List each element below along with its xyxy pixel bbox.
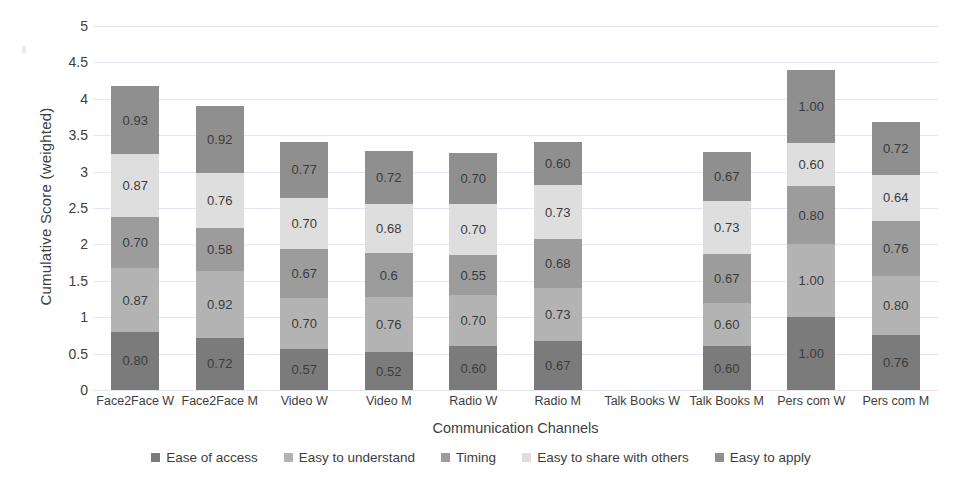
bar-segment[interactable]: 0.70 [449, 153, 497, 204]
x-axis-tick-label: Face2Face W [93, 394, 178, 414]
bar-slot: 0.760.800.760.640.72 [854, 26, 939, 390]
bar-segment[interactable]: 0.73 [703, 201, 751, 254]
legend-item[interactable]: Easy to understand [284, 450, 415, 465]
x-axis-tick-label: Radio W [431, 394, 516, 414]
bar-segment[interactable]: 0.87 [111, 154, 159, 217]
bar-slot: 0.570.700.670.700.77 [262, 26, 347, 390]
bar-segment[interactable]: 0.52 [365, 352, 413, 390]
bar-segment[interactable]: 0.67 [534, 341, 582, 390]
bars-container: 0.800.870.700.870.930.720.920.580.760.92… [93, 26, 938, 390]
bar-segment[interactable]: 0.70 [449, 204, 497, 255]
bar-segment[interactable]: 1.00 [787, 317, 835, 390]
bar-stack[interactable]: 0.720.920.580.760.92 [196, 106, 244, 390]
bar-segment[interactable]: 0.72 [365, 151, 413, 203]
bar-stack[interactable]: 0.760.800.760.640.72 [872, 122, 920, 390]
bar-segment[interactable]: 0.73 [534, 288, 582, 341]
bar-stack[interactable]: 0.600.700.550.700.70 [449, 153, 497, 390]
x-axis-tick-label: Video M [347, 394, 432, 414]
bar-segment[interactable]: 0.72 [872, 122, 920, 174]
bar-segment[interactable]: 0.60 [703, 346, 751, 390]
bar-segment[interactable]: 0.57 [280, 349, 328, 390]
y-axis-tick-label: 1.5 [69, 273, 88, 289]
bar-slot: 1.001.000.800.601.00 [769, 26, 854, 390]
x-axis-tick-label: Talk Books W [600, 394, 685, 414]
bar-segment[interactable]: 0.76 [872, 221, 920, 276]
x-axis-tick-label: Pers com W [769, 394, 854, 414]
legend-swatch-icon [522, 453, 531, 462]
chart-legend: Ease of accessEasy to understandTimingEa… [0, 450, 962, 465]
bar-segment[interactable]: 0.60 [703, 303, 751, 347]
legend-item[interactable]: Easy to share with others [522, 450, 689, 465]
x-axis-title: Communication Channels [93, 420, 938, 436]
legend-swatch-icon [151, 453, 160, 462]
bar-stack[interactable]: 0.600.600.670.730.67 [703, 152, 751, 390]
bar-segment[interactable]: 0.68 [365, 204, 413, 254]
bar-segment[interactable]: 0.92 [196, 271, 244, 338]
bar-slot: 0.600.600.670.730.67 [685, 26, 770, 390]
x-axis-tick-label: Video W [262, 394, 347, 414]
bar-segment[interactable]: 0.76 [196, 173, 244, 228]
bar-segment[interactable]: 1.00 [787, 70, 835, 143]
legend-label: Ease of access [166, 450, 258, 465]
bar-segment[interactable]: 0.76 [872, 335, 920, 390]
bar-slot: 0.520.760.60.680.72 [347, 26, 432, 390]
legend-label: Easy to understand [299, 450, 415, 465]
y-axis-ticks: 00.511.522.533.544.55 [40, 26, 88, 390]
legend-label: Timing [456, 450, 496, 465]
gridline [93, 390, 938, 391]
stacked-bar-chart: Cumulative Score (weighted) 00.511.522.5… [0, 0, 962, 478]
bar-segment[interactable]: 0.67 [703, 152, 751, 201]
y-axis-tick-label: 4.5 [69, 54, 88, 70]
bar-segment[interactable]: 0.70 [449, 295, 497, 346]
bar-segment[interactable]: 0.70 [280, 298, 328, 349]
bar-segment[interactable]: 0.68 [534, 239, 582, 289]
x-axis-tick-label: Face2Face M [178, 394, 263, 414]
bar-segment[interactable]: 0.55 [449, 255, 497, 295]
bar-segment[interactable]: 0.93 [111, 86, 159, 154]
bar-segment[interactable]: 0.73 [534, 185, 582, 238]
bar-segment[interactable]: 0.77 [280, 142, 328, 198]
legend-item[interactable]: Ease of access [151, 450, 258, 465]
bar-segment[interactable]: 0.67 [703, 254, 751, 303]
bar-segment[interactable]: 0.70 [280, 198, 328, 249]
bar-segment[interactable]: 0.60 [787, 143, 835, 187]
bar-stack[interactable]: 0.570.700.670.700.77 [280, 142, 328, 390]
bar-segment[interactable]: 0.72 [196, 338, 244, 390]
bar-segment[interactable]: 0.67 [280, 249, 328, 298]
legend-swatch-icon [715, 453, 724, 462]
y-axis-tick-label: 3 [80, 164, 88, 180]
bar-segment[interactable]: 0.60 [449, 346, 497, 390]
x-axis-tick-label: Talk Books M [685, 394, 770, 414]
bar-segment[interactable]: 0.60 [534, 142, 582, 186]
bar-segment[interactable]: 0.64 [872, 175, 920, 222]
bar-segment[interactable]: 0.80 [787, 186, 835, 244]
bar-segment[interactable]: 1.00 [787, 244, 835, 317]
legend-label: Easy to apply [730, 450, 811, 465]
bar-segment[interactable]: 0.87 [111, 268, 159, 331]
bar-stack[interactable]: 1.001.000.800.601.00 [787, 70, 835, 390]
legend-swatch-icon [441, 453, 450, 462]
y-axis-tick-label: 3.5 [69, 127, 88, 143]
legend-item[interactable]: Easy to apply [715, 450, 811, 465]
bar-segment[interactable]: 0.76 [365, 297, 413, 352]
bar-slot: 0.600.700.550.700.70 [431, 26, 516, 390]
bar-segment[interactable]: 0.80 [872, 276, 920, 334]
bar-stack[interactable]: 0.670.730.680.730.60 [534, 142, 582, 390]
bar-stack[interactable]: 0.800.870.700.870.93 [111, 86, 159, 390]
y-axis-tick-label: 1 [80, 309, 88, 325]
bar-segment[interactable]: 0.6 [365, 253, 413, 297]
bar-segment[interactable]: 0.80 [111, 332, 159, 390]
y-axis-tick-label: 5 [80, 18, 88, 34]
bar-segment[interactable]: 0.58 [196, 228, 244, 270]
bar-slot: 0.670.730.680.730.60 [516, 26, 601, 390]
legend-label: Easy to share with others [537, 450, 689, 465]
bar-slot [600, 26, 685, 390]
legend-item[interactable]: Timing [441, 450, 496, 465]
bar-segment[interactable]: 0.92 [196, 106, 244, 173]
y-axis-tick-label: 4 [80, 91, 88, 107]
bar-segment[interactable]: 0.70 [111, 217, 159, 268]
x-axis-tick-labels: Face2Face WFace2Face MVideo WVideo MRadi… [93, 394, 938, 414]
bar-slot: 0.800.870.700.870.93 [93, 26, 178, 390]
bar-stack[interactable]: 0.520.760.60.680.72 [365, 151, 413, 390]
y-axis-tick-label: 2.5 [69, 200, 88, 216]
